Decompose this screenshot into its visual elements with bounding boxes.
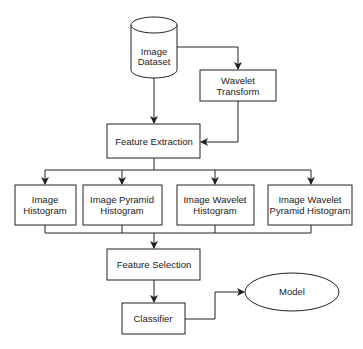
edge-classifier-to-model <box>185 292 244 319</box>
edge-extraction-bus <box>45 158 311 170</box>
edge-wavelet-to-extraction <box>201 101 238 142</box>
edge-dataset-to-wavelet <box>177 47 238 69</box>
hist4-label-line1: Image Wavelet <box>278 194 341 205</box>
wavelet-label-line2: Transform <box>217 86 260 97</box>
extraction-label: Feature Extraction <box>115 136 193 147</box>
hist4-label-line2: Pyramid Histogram <box>270 205 351 216</box>
selection-label: Feature Selection <box>117 259 191 270</box>
hist2-label-line1: Image Pyramid <box>90 194 154 205</box>
hist3-label-line2: Histogram <box>193 205 236 216</box>
flowchart-diagram: Image Dataset Wavelet Transform Feature … <box>0 0 363 349</box>
wavelet-label-line1: Wavelet <box>221 75 255 86</box>
hist1-label-line2: Histogram <box>23 205 66 216</box>
hist1-label-line1: Image <box>32 194 58 205</box>
classifier-label: Classifier <box>133 313 172 324</box>
hist2-label-line2: Histogram <box>100 205 143 216</box>
dataset-label-line2: Dataset <box>138 56 171 67</box>
hist3-label-line1: Image Wavelet <box>183 194 246 205</box>
model-label: Model <box>279 286 305 297</box>
edge-merge-bus <box>45 225 311 233</box>
